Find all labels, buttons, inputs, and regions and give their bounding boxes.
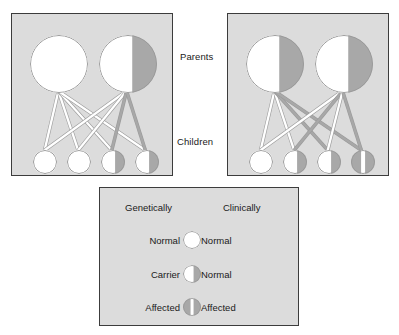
child-symbol-carrier: [317, 150, 341, 174]
child-symbol-normal: [249, 150, 273, 174]
legend-symbol-affected: [183, 298, 201, 316]
allele-link-outline: [261, 91, 275, 150]
allele-link-normal: [45, 91, 127, 150]
allele-link-affected: [274, 91, 361, 150]
allele-link-affected: [294, 91, 342, 150]
child-symbol-normal: [67, 150, 91, 174]
allele-link-outline: [294, 91, 342, 150]
allele-link-outline: [328, 91, 343, 150]
allele-link-normal: [261, 91, 275, 150]
legend-genetic-label: Carrier: [151, 269, 180, 280]
legend-symbol-normal: [183, 231, 201, 249]
allele-link-outline: [58, 91, 78, 150]
allele-link-affected: [112, 91, 127, 150]
row-label-children: Children: [177, 136, 213, 147]
legend-header-genetically: Genetically: [125, 202, 172, 213]
legend-genetic-label: Affected: [145, 302, 180, 313]
allele-link-outline: [45, 91, 127, 150]
figure-canvas: Parents Children Genetically Clinically …: [0, 0, 399, 335]
legend-row: Affected Affected: [100, 296, 298, 322]
allele-link-outline: [127, 91, 146, 150]
legend-circle-normal: [183, 231, 201, 249]
legend-genetic-label: Normal: [149, 235, 180, 246]
legend-row: Normal Normal: [100, 229, 298, 255]
allele-link-normal: [328, 91, 343, 150]
parent-symbol-carrier: [315, 35, 373, 93]
allele-link-outline: [274, 91, 361, 150]
allele-link-affected: [274, 91, 327, 150]
panel-right-content: [228, 14, 388, 175]
allele-link-outline: [58, 91, 145, 150]
parent-symbol-normal: [30, 35, 88, 93]
allele-link-normal: [274, 91, 294, 150]
allele-link-outline: [274, 91, 294, 150]
legend-panel: Genetically Clinically Normal Normal Car…: [99, 187, 299, 326]
allele-link-outline: [112, 91, 127, 150]
legend-circle-carrier: [183, 265, 201, 283]
allele-link-normal: [45, 91, 59, 150]
allele-link-outline: [274, 91, 327, 150]
allele-link-normal: [58, 91, 111, 150]
legend-circle-affected: [183, 298, 201, 316]
allele-link-outline: [343, 91, 362, 150]
legend-symbol-carrier: [183, 265, 201, 283]
allele-link-normal: [58, 91, 78, 150]
panel-left-content: [12, 14, 172, 175]
legend-clinical-label: Affected: [201, 302, 236, 313]
parent-symbol-carrier: [246, 35, 304, 93]
child-symbol-carrier: [101, 150, 125, 174]
child-symbol-carrier: [283, 150, 307, 174]
child-symbol-carrier: [135, 150, 159, 174]
pedigree-panel-left: [11, 13, 173, 176]
pedigree-panel-right: [227, 13, 389, 176]
legend-row: Carrier Normal: [100, 263, 298, 289]
allele-link-affected: [127, 91, 146, 150]
allele-link-normal: [261, 91, 343, 150]
allele-link-outline: [261, 91, 343, 150]
allele-link-normal: [78, 91, 126, 150]
legend-clinical-label: Normal: [201, 235, 232, 246]
child-symbol-normal: [33, 150, 57, 174]
allele-link-normal: [58, 91, 145, 150]
allele-link-outline: [45, 91, 59, 150]
allele-link-outline: [58, 91, 111, 150]
allele-link-outline: [78, 91, 126, 150]
allele-link-affected: [343, 91, 362, 150]
legend-header-clinically: Clinically: [223, 202, 260, 213]
parent-symbol-carrier: [99, 35, 157, 93]
row-label-parents: Parents: [180, 51, 213, 62]
child-symbol-affected: [351, 150, 375, 174]
legend-clinical-label: Normal: [201, 269, 232, 280]
